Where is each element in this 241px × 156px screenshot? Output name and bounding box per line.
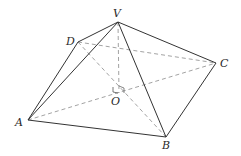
height-VO-hidden [118,22,119,93]
edge-AB [28,120,166,137]
vertex-label-O: O [111,96,120,107]
edge-DA [28,42,78,120]
vertex-label-B: B [162,140,170,151]
edge-DB-hidden [78,42,166,137]
vertex-label-D: D [66,36,75,47]
pyramid-diagram: V D C A B O [0,0,241,156]
edge-AC-hidden [28,63,216,120]
edge-VD [78,22,118,42]
vertex-label-A: A [15,117,23,128]
edge-BC [166,63,216,137]
vertex-label-V: V [113,8,121,19]
pyramid-figure [0,0,241,156]
vertex-label-C: C [220,58,228,69]
right-angle-marker [113,87,118,93]
edge-DC-hidden [78,42,216,63]
